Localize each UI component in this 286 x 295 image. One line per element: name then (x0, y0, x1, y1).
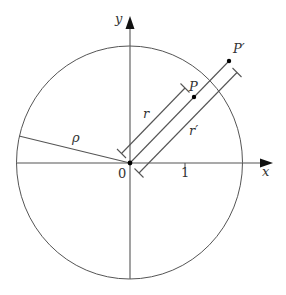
tick-1-label: 1 (181, 166, 189, 179)
y-axis-arrow-icon (126, 16, 135, 29)
rho-label: ρ (72, 131, 80, 144)
diagram: y x 0 1 ρ P P′ r r′ (0, 0, 286, 295)
x-axis-label: x (262, 165, 269, 178)
point-p-prime (227, 59, 231, 63)
r-label: r (143, 107, 149, 120)
y-axis-label: y (115, 12, 122, 25)
origin-label: 0 (118, 167, 126, 180)
point-p (192, 95, 196, 99)
r-prime-label: r′ (189, 124, 198, 137)
p-prime-label: P′ (233, 42, 245, 55)
r-prime-bracket-line (139, 73, 237, 174)
r-bracket-line (122, 88, 186, 154)
origin-point (128, 161, 133, 166)
p-label: P (189, 80, 198, 93)
